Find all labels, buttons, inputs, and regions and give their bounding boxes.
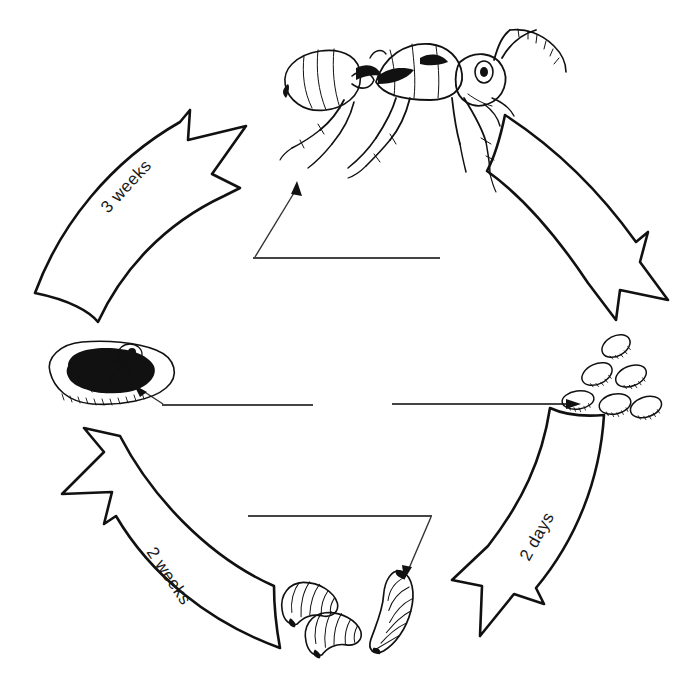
arrow-egg-to-larva: 2 days (452, 408, 604, 636)
egg-cluster-illustration (561, 330, 665, 424)
arrow-pupa-to-adult: 3 weeks (35, 110, 246, 322)
ant-life-cycle-page: 3 weeks 2 days 2 weeks (0, 0, 687, 700)
ant-life-cycle-diagram: 3 weeks 2 days 2 weeks (0, 0, 687, 700)
arrow-adult-to-egg (487, 115, 668, 320)
label-line-pupa[interactable] (134, 385, 313, 405)
arrow-larva-to-pupa: 2 weeks (62, 428, 280, 648)
larva-illustration (277, 569, 418, 665)
pupa-cocoon-illustration (49, 341, 174, 405)
label-line-egg[interactable] (392, 399, 581, 409)
label-line-adult[interactable] (253, 181, 440, 258)
label-line-larva[interactable] (248, 516, 432, 580)
